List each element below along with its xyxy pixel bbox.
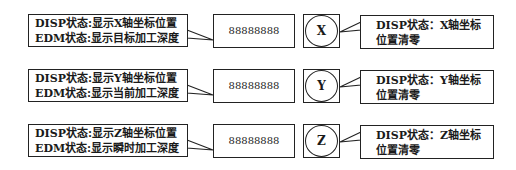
disp-state-text: DISP状态:显示Z轴坐标位置	[35, 126, 187, 141]
key-function-callout: DISP状态：X轴坐标 位置清零	[360, 15, 494, 49]
x-axis-display: 88888888	[213, 14, 295, 48]
disp-edm-description-callout: DISP状态:显示Z轴坐标位置 EDM状态:显示瞬时加工深度	[28, 124, 188, 157]
disp-state-text: DISP状态:显示Y轴坐标位置	[35, 71, 187, 86]
y-key-label: Y	[305, 70, 338, 102]
x-key-button[interactable]: X	[303, 14, 340, 48]
disp-edm-description-callout: DISP状态:显示X轴坐标位置 EDM状态:显示目标加工深度	[28, 14, 188, 47]
row-z-axis: DISP状态:显示Z轴坐标位置 EDM状态:显示瞬时加工深度 88888888 …	[0, 110, 516, 166]
y-axis-display: 88888888	[213, 69, 295, 103]
key-function-line-2: 位置清零	[376, 88, 493, 103]
edm-state-text: EDM状态:显示当前加工深度	[35, 86, 187, 101]
z-key-label: Z	[305, 125, 338, 157]
key-function-callout: DISP状态：Y轴坐标 位置清零	[360, 70, 494, 104]
disp-edm-description-callout: DISP状态:显示Y轴坐标位置 EDM状态:显示当前加工深度	[28, 69, 188, 102]
key-function-callout: DISP状态：Z轴坐标 位置清零	[360, 125, 494, 159]
row-y-axis: DISP状态:显示Y轴坐标位置 EDM状态:显示当前加工深度 88888888 …	[0, 55, 516, 111]
edm-state-text: EDM状态:显示目标加工深度	[35, 31, 187, 46]
y-key-button[interactable]: Y	[303, 69, 340, 103]
z-key-button[interactable]: Z	[303, 124, 340, 158]
key-function-line-1: DISP状态：Y轴坐标	[376, 73, 493, 88]
edm-state-text: EDM状态:显示瞬时加工深度	[35, 141, 187, 156]
key-function-line-2: 位置清零	[376, 33, 493, 48]
x-key-label: X	[305, 15, 338, 47]
z-axis-display: 88888888	[213, 124, 295, 158]
key-function-line-2: 位置清零	[376, 143, 493, 158]
key-function-line-1: DISP状态：Z轴坐标	[376, 128, 493, 143]
row-x-axis: DISP状态:显示X轴坐标位置 EDM状态:显示目标加工深度 88888888 …	[0, 0, 516, 56]
key-function-line-1: DISP状态：X轴坐标	[376, 18, 493, 33]
disp-state-text: DISP状态:显示X轴坐标位置	[35, 16, 187, 31]
